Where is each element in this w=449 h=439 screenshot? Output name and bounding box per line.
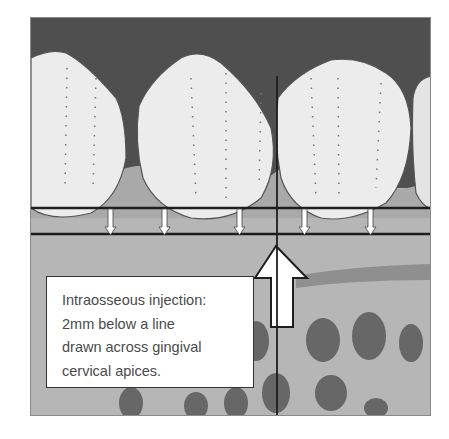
tooth-3 (276, 59, 411, 219)
dental-diagram: Intraosseous injection: 2mm below a line… (30, 17, 431, 416)
caption-box: Intraosseous injection: 2mm below a line… (46, 276, 254, 388)
caption-line-2: 2mm below a line (62, 313, 245, 337)
caption-line-1: Intraosseous injection: (62, 289, 245, 313)
caption-line-4: cervical apices. (62, 360, 245, 384)
caption-line-3: drawn across gingival (62, 336, 245, 360)
tooth-4 (412, 76, 431, 208)
